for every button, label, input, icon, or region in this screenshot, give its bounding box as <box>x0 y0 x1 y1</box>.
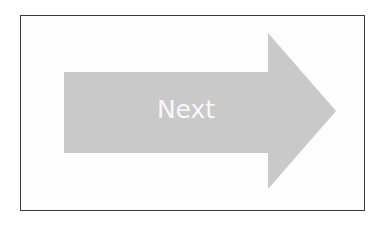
next-button-label[interactable]: Next <box>140 94 232 126</box>
